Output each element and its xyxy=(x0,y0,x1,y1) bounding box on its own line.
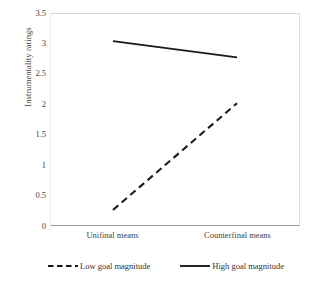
y-axis-tick-label: 0.5 xyxy=(14,191,46,200)
x-axis-tick-labels: Unifinal meansCounterfinal means xyxy=(50,230,300,246)
legend-label: High goal magnitude xyxy=(212,261,284,271)
series-line-low-goal-magnitude xyxy=(113,103,237,210)
chart-legend: Low goal magnitudeHigh goal magnitude xyxy=(0,258,332,274)
solid-line-icon xyxy=(180,262,210,270)
y-axis-tick-label: 1.5 xyxy=(14,130,46,139)
y-axis-tick-label: 2.5 xyxy=(14,69,46,78)
y-axis-tick-label: 2 xyxy=(14,100,46,109)
plot-area xyxy=(50,13,300,226)
y-axis-tick-label: 1 xyxy=(14,161,46,170)
legend-entry-0[interactable]: Low goal magnitude xyxy=(48,261,150,271)
legend-label: Low goal magnitude xyxy=(80,261,150,271)
x-axis-tick-label-1: Counterfinal means xyxy=(175,230,300,246)
dashed-line-icon xyxy=(48,262,78,270)
x-axis-tick-label-0: Unifinal means xyxy=(50,230,175,246)
legend-entry-1[interactable]: High goal magnitude xyxy=(180,261,284,271)
y-axis-tick-label: 3.5 xyxy=(14,9,46,18)
plot-lines-svg xyxy=(51,14,299,225)
y-axis-tick-label: 0 xyxy=(14,222,46,231)
series-line-high-goal-magnitude xyxy=(113,41,237,57)
y-axis-tick-label: 3 xyxy=(14,39,46,48)
line-chart-figure: Instrumentality ratings 00.511.522.533.5… xyxy=(0,0,332,282)
y-axis-tick-labels: 00.511.522.533.5 xyxy=(14,0,46,282)
